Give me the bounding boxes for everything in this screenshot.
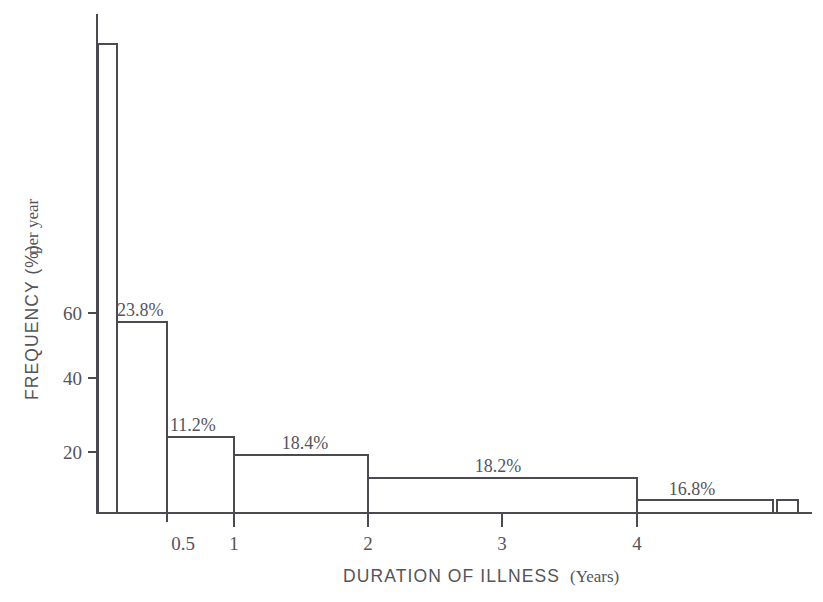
bar-label-3: 18.4% bbox=[282, 433, 329, 453]
histogram-bars bbox=[98, 44, 798, 513]
x-tick-label-1: 1 bbox=[229, 533, 239, 554]
bar-5 bbox=[637, 500, 773, 513]
bar-label-1: 23.8% bbox=[117, 300, 164, 320]
x-tick-label-2: 2 bbox=[363, 533, 373, 554]
x-tick-label-4: 4 bbox=[632, 533, 642, 554]
histogram-chart: 60 40 20 0.5 1 2 3 4 bbox=[0, 0, 823, 602]
x-axis-title-main: DURATION OF ILLNESS bbox=[343, 566, 560, 586]
bar-4 bbox=[368, 478, 637, 513]
x-axis-tick-labels: 0.5 1 2 3 4 bbox=[171, 533, 642, 554]
chart-canvas: 60 40 20 0.5 1 2 3 4 bbox=[0, 0, 823, 602]
x-axis-title-unit: (Years) bbox=[570, 567, 619, 586]
x-axis-ticks bbox=[167, 513, 637, 527]
bar-3 bbox=[234, 455, 368, 513]
bar-0 bbox=[98, 44, 117, 513]
y-tick-label-40: 40 bbox=[63, 368, 82, 389]
y-axis-title: FREQUENCY (%) per year bbox=[22, 198, 42, 400]
x-axis-title: DURATION OF ILLNESS (Years) bbox=[343, 566, 619, 586]
x-tick-label-0-5: 0.5 bbox=[171, 533, 195, 554]
y-tick-label-20: 20 bbox=[63, 442, 82, 463]
y-axis-tick-labels: 60 40 20 bbox=[63, 303, 82, 463]
y-axis-title-main: FREQUENCY (%) bbox=[22, 244, 42, 400]
bar-2 bbox=[167, 437, 234, 513]
bar-value-labels: 23.8% 11.2% 18.4% 18.2% 16.8% bbox=[117, 300, 715, 499]
bar-1 bbox=[117, 322, 167, 513]
bar-label-2: 11.2% bbox=[170, 415, 216, 435]
bar-label-5: 16.8% bbox=[669, 479, 716, 499]
bar-extra-box bbox=[777, 500, 798, 513]
bar-label-4: 18.2% bbox=[475, 456, 522, 476]
x-tick-label-3: 3 bbox=[497, 533, 507, 554]
y-axis-title-unit: per year bbox=[23, 198, 42, 254]
y-tick-label-60: 60 bbox=[63, 303, 82, 324]
